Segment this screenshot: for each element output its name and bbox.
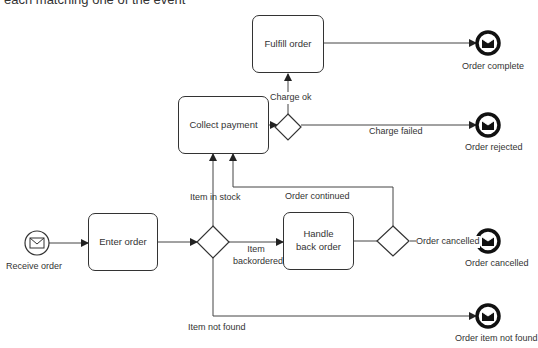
task-enter-order[interactable]: Enter order — [88, 213, 158, 271]
end-event-order-rejected — [477, 114, 499, 136]
task-label: Enter order — [99, 236, 147, 249]
end-event-label-order-item-not-found: Order item not found — [455, 333, 538, 345]
task-handle-back-order[interactable]: Handle back order — [283, 212, 354, 270]
task-label: Handle back order — [295, 228, 343, 254]
flow-label-charge-failed: Charge failed — [369, 126, 423, 138]
end-event-label-order-complete: Order complete — [462, 61, 524, 73]
task-label: Collect payment — [189, 119, 257, 132]
end-event-label-order-cancelled: Order cancelled — [465, 258, 529, 270]
task-label: Fulfill order — [265, 38, 312, 51]
end-event-order-item-not-found — [477, 305, 499, 327]
gateway-backorder-decision — [377, 226, 409, 256]
gateway-charge-result — [275, 114, 301, 140]
start-event-receive-order — [25, 231, 49, 255]
end-event-order-complete — [477, 32, 499, 54]
flow-label-item-in-stock: Item in stock — [190, 192, 241, 204]
flow-label-item-backordered: Item backordered — [233, 244, 279, 267]
end-event-label-order-rejected: Order rejected — [465, 142, 523, 154]
task-collect-payment[interactable]: Collect payment — [178, 96, 269, 154]
start-event-label: Receive order — [6, 261, 62, 273]
flow-label-order-continued: Order continued — [285, 191, 350, 203]
flow-label-item-not-found: Item not found — [188, 322, 246, 334]
flow-label-charge-ok: Charge ok — [270, 92, 312, 104]
gateway-stock-check — [197, 226, 229, 258]
task-fulfill-order[interactable]: Fulfill order — [252, 15, 324, 73]
end-event-order-cancelled — [477, 230, 499, 252]
flow-label-order-cancelled: Order cancelled — [416, 236, 480, 248]
